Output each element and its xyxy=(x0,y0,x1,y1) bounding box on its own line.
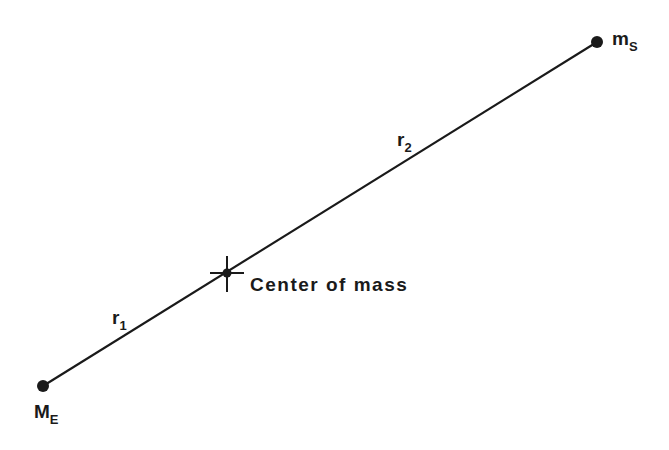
r2-label: r2 xyxy=(397,129,412,155)
sun-label: mS xyxy=(612,28,638,54)
earth-label: ME xyxy=(34,401,59,427)
connecting-line xyxy=(43,42,597,386)
sun-point xyxy=(591,36,603,48)
earth-point xyxy=(37,380,49,392)
center-of-mass-label: Center of mass xyxy=(250,274,408,295)
center-of-mass-marker xyxy=(210,256,244,292)
r1-label: r1 xyxy=(112,307,127,333)
two-body-diagram: mS ME Center of mass r2 r1 xyxy=(0,0,669,450)
